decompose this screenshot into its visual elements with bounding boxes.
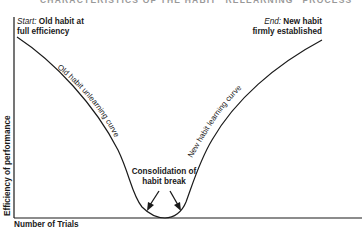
x-axis-label: Number of Trials [14, 220, 79, 228]
arrow-right-icon [170, 191, 181, 211]
end-label-line2: firmly established [252, 27, 322, 36]
arrow-left-icon [147, 191, 159, 211]
y-axis-label: Efficiency of performance [3, 115, 12, 216]
start-label-line2: full efficiency [17, 27, 70, 36]
consolidation-label-line2: habit break [142, 177, 186, 186]
habit-relearning-diagram: CHARACTERISTICS OF THE HABIT "RELEARNING… [0, 0, 362, 228]
new-habit-learning-curve [165, 40, 322, 218]
right-curve-label: New habit learning curve [186, 83, 243, 159]
figure-title: CHARACTERISTICS OF THE HABIT "RELEARNING… [40, 0, 352, 5]
old-habit-unlearning-curve [17, 37, 165, 218]
end-label-line1: End: New habit [264, 17, 322, 26]
left-curve-label: Old habit unlearning curve [56, 63, 122, 139]
consolidation-label-line1: Consolidation of [132, 167, 197, 176]
start-label-line1: Start: Old habit at [17, 17, 84, 26]
